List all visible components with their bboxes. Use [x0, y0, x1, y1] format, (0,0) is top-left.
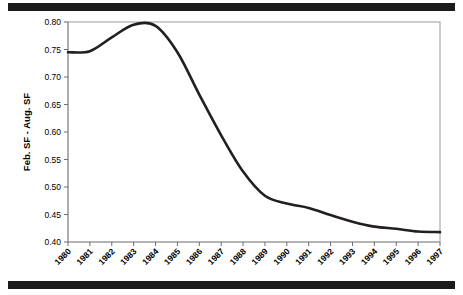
- x-tick-label: 1982: [96, 246, 117, 267]
- x-tick-label: 1995: [381, 246, 402, 267]
- x-tick-label: 1996: [403, 246, 424, 267]
- line-chart: 0.400.450.500.550.600.650.700.750.801980…: [0, 0, 463, 295]
- y-tick-label: 0.50: [44, 182, 61, 192]
- x-tick-label: 1984: [140, 246, 161, 267]
- x-tick-label: 1986: [184, 246, 205, 267]
- x-tick-label: 1980: [52, 246, 73, 267]
- y-tick-label: 0.75: [44, 45, 61, 55]
- y-tick-label: 0.65: [44, 100, 61, 110]
- y-tick-label: 0.60: [44, 127, 61, 137]
- x-tick-label: 1991: [293, 246, 314, 267]
- x-tick-label: 1987: [206, 246, 227, 267]
- figure-container: 0.400.450.500.550.600.650.700.750.801980…: [0, 0, 463, 295]
- y-tick-label: 0.80: [44, 17, 61, 27]
- x-tick-label: 1989: [249, 246, 270, 267]
- x-tick-label: 1990: [271, 246, 292, 267]
- x-tick-label: 1994: [359, 246, 380, 267]
- x-tick-label: 1985: [162, 246, 183, 267]
- x-tick-label: 1997: [424, 246, 445, 267]
- x-tick-label: 1981: [74, 246, 95, 267]
- x-tick-label: 1988: [228, 246, 249, 267]
- y-tick-label: 0.70: [44, 72, 61, 82]
- x-tick-label: 1993: [337, 246, 358, 267]
- y-tick-label: 0.45: [44, 210, 61, 220]
- y-axis-title: Feb. SF - Aug. SF: [21, 93, 32, 171]
- x-tick-label: 1983: [118, 246, 139, 267]
- y-tick-label: 0.40: [44, 237, 61, 247]
- plot-frame: [68, 22, 440, 242]
- y-tick-label: 0.55: [44, 155, 61, 165]
- x-tick-label: 1992: [315, 246, 336, 267]
